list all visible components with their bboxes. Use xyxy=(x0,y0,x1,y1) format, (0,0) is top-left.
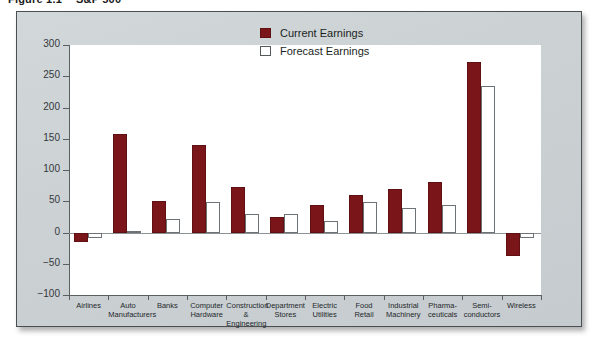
x-axis-category-label: Airlines xyxy=(69,301,108,310)
x-axis-tick-mark xyxy=(502,295,503,300)
bar-forecast xyxy=(88,233,102,238)
x-axis-category-label: Electric Utilities xyxy=(305,301,344,319)
x-axis-category-label: Construction & Engineering xyxy=(226,301,265,328)
y-axis-tick-label: 150 xyxy=(43,132,60,143)
figure-number: Figure 1.1 xyxy=(8,0,62,5)
x-axis-tick-mark xyxy=(69,295,70,300)
x-axis-tick-mark xyxy=(187,295,188,300)
y-axis-tick-label: 300 xyxy=(43,38,60,49)
legend-item-forecast: Forecast Earnings xyxy=(260,42,369,60)
y-axis-tick-mark xyxy=(63,170,69,171)
y-axis-tick-mark xyxy=(63,76,69,77)
bar-forecast xyxy=(245,214,259,232)
bar-forecast xyxy=(402,208,416,232)
bar-current xyxy=(428,182,442,233)
x-axis-tick-mark xyxy=(108,295,109,300)
x-axis-tick-mark xyxy=(384,295,385,300)
bar-current xyxy=(74,233,88,242)
bar-forecast xyxy=(324,221,338,232)
bar-current xyxy=(310,205,324,233)
x-axis-category-label: Computer Hardware xyxy=(187,301,226,319)
bar-current xyxy=(192,145,206,233)
bar-current xyxy=(506,233,520,257)
bar-forecast xyxy=(520,233,534,238)
chart-legend: Current Earnings Forecast Earnings xyxy=(260,24,369,60)
x-axis-category-label: Wireless xyxy=(502,301,541,310)
bar-forecast xyxy=(284,214,298,232)
zero-baseline xyxy=(69,233,541,234)
legend-swatch-current-icon xyxy=(260,28,271,38)
x-axis-tick-mark xyxy=(305,295,306,300)
x-axis-category-label: Semi- conductors xyxy=(462,301,501,319)
bar-forecast xyxy=(127,231,141,233)
y-axis-tick-label: 0 xyxy=(54,226,60,237)
bar-current xyxy=(231,187,245,233)
bar-current xyxy=(270,217,284,233)
bar-current xyxy=(388,189,402,232)
y-axis-tick-mark xyxy=(63,264,69,265)
bar-current xyxy=(152,201,166,233)
y-axis-tick-label: −100 xyxy=(37,288,60,299)
x-axis-category-label: Department Stores xyxy=(266,301,305,319)
y-axis-tick-label: −50 xyxy=(43,257,60,268)
y-axis-tick-mark xyxy=(63,201,69,202)
x-axis-category-label: Banks xyxy=(148,301,187,310)
x-axis-tick-mark xyxy=(541,295,542,300)
x-axis-category-label: Pharma- ceuticals xyxy=(423,301,462,319)
x-axis-tick-mark xyxy=(226,295,227,300)
bar-current xyxy=(349,195,363,233)
bar-forecast xyxy=(206,202,220,233)
x-axis-tick-mark xyxy=(462,295,463,300)
x-axis-category-label: Food Retail xyxy=(344,301,383,319)
x-axis-tick-mark xyxy=(266,295,267,300)
y-axis-tick-label: 200 xyxy=(43,101,60,112)
y-axis-tick-mark xyxy=(63,45,69,46)
legend-label-forecast: Forecast Earnings xyxy=(280,45,369,57)
y-axis-tick-mark xyxy=(63,139,69,140)
y-axis-tick-label: 100 xyxy=(43,163,60,174)
x-axis-tick-mark xyxy=(148,295,149,300)
y-axis-tick-label: 250 xyxy=(43,69,60,80)
figure-panel: 300250200150100500−50−100 AirlinesAuto M… xyxy=(16,11,582,327)
x-axis-tick-mark xyxy=(344,295,345,300)
x-axis-tick-mark xyxy=(423,295,424,300)
y-axis xyxy=(69,45,70,295)
legend-item-current: Current Earnings xyxy=(260,24,369,42)
bar-current xyxy=(467,62,481,233)
legend-swatch-forecast-icon xyxy=(260,46,271,56)
bar-forecast xyxy=(442,205,456,233)
y-axis-tick-label: 50 xyxy=(49,194,60,205)
figure-caption: Figure 1.1S&P 500 xyxy=(8,0,121,7)
bar-current xyxy=(113,134,127,233)
bar-forecast xyxy=(166,219,180,233)
bar-forecast xyxy=(363,202,377,233)
y-axis-tick-mark xyxy=(63,108,69,109)
legend-label-current: Current Earnings xyxy=(280,27,363,39)
x-axis-category-label: Industrial Machinery xyxy=(384,301,423,319)
bar-forecast xyxy=(481,86,495,233)
y-axis-tick-mark xyxy=(63,233,69,234)
figure-title: S&P 500 xyxy=(76,0,121,5)
x-axis-category-label: Auto Manufacturers xyxy=(108,301,147,319)
